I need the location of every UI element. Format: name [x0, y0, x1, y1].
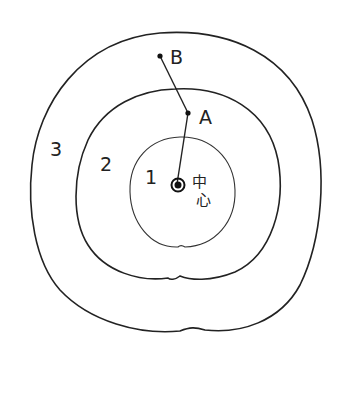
- point-a-label: A: [199, 108, 212, 127]
- center-label-line2: 心: [196, 193, 211, 208]
- center-marker-inner: [175, 182, 182, 189]
- point-b-label: B: [170, 48, 183, 67]
- point-b-marker: [157, 53, 162, 58]
- ring-3-label: 3: [50, 140, 62, 159]
- ring-1-label: 1: [145, 168, 157, 187]
- ring-2-label: 2: [100, 155, 112, 174]
- point-a-marker: [185, 110, 190, 115]
- ring-3-outline: [31, 32, 321, 331]
- ring-1-outline: [130, 137, 235, 247]
- line-center-to-a: [177, 113, 188, 184]
- center-label-line1: 中: [192, 175, 207, 190]
